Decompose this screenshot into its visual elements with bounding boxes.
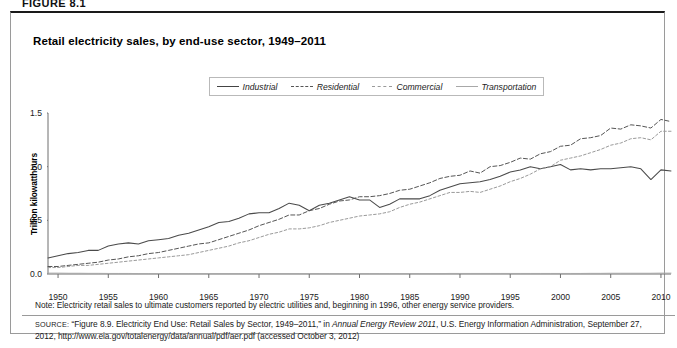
- figure-panel: Retail electricity sales, by end-use sec…: [10, 11, 665, 334]
- legend-swatch-industrial-icon: [217, 86, 239, 87]
- line-chart-svg: [47, 111, 672, 286]
- source-divider: [22, 315, 675, 316]
- legend-item-transportation: Transportation: [456, 82, 537, 92]
- legend-label-residential: Residential: [317, 82, 360, 92]
- chart-plot-area: 0.00.51.01.5 195019551960196519701975198…: [47, 111, 672, 286]
- legend-label-commercial: Commercial: [396, 82, 442, 92]
- legend-item-industrial: Industrial: [217, 82, 278, 92]
- source-part-one: “Figure 8.9. Electricity End Use: Retail…: [71, 319, 332, 329]
- x-tick-label: 2005: [601, 292, 620, 302]
- series-line-industrial: [48, 165, 671, 258]
- x-tick-label: 2010: [651, 292, 670, 302]
- legend-label-transportation: Transportation: [482, 82, 537, 92]
- figure-page: FIGURE 8.1 Retail electricity sales, by …: [0, 0, 677, 348]
- legend-swatch-transportation-icon: [456, 86, 478, 87]
- y-tick-label: 0.5: [30, 215, 42, 225]
- series-line-residential: [48, 119, 671, 266]
- legend-label-industrial: Industrial: [243, 82, 278, 92]
- source-italic-title: Annual Energy Review 2011: [332, 319, 436, 329]
- y-tick-label: 1.0: [30, 162, 42, 172]
- source-prefix: SOURCE:: [35, 320, 69, 329]
- y-tick-label: 0.0: [30, 269, 42, 279]
- legend-swatch-commercial-icon: [372, 86, 392, 87]
- source-citation: SOURCE: “Figure 8.9. Electricity End Use…: [35, 319, 659, 342]
- x-tick-label: 2000: [551, 292, 570, 302]
- page-title: Retail electricity sales, by end-use sec…: [33, 35, 326, 47]
- chart-legend: Industrial Residential Commercial Transp…: [209, 77, 544, 96]
- figure-label: FIGURE 8.1: [22, 0, 86, 9]
- legend-item-commercial: Commercial: [372, 82, 442, 92]
- y-tick-label: 1.5: [30, 108, 42, 118]
- legend-swatch-residential-icon: [291, 86, 313, 87]
- legend-item-residential: Residential: [291, 82, 360, 92]
- chart-note: Note: Electricity retail sales to ultima…: [35, 300, 514, 310]
